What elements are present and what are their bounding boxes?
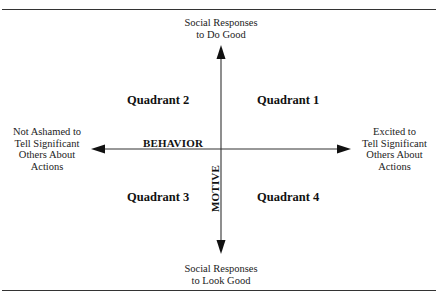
motive-axis-label: MOTIVE: [209, 168, 221, 212]
left-pole-line: Actions: [2, 161, 92, 173]
top-pole-label: Social Responses to Do Good: [160, 17, 282, 40]
quadrant-4-label: Quadrant 4: [257, 190, 319, 205]
bottom-pole-label: Social Responses to Look Good: [160, 263, 282, 286]
arrow-left-icon: [91, 145, 105, 154]
behavior-axis-label: BEHAVIOR: [143, 137, 203, 149]
right-pole-line: Excited to: [348, 126, 441, 138]
arrow-down-icon: [217, 240, 226, 254]
arrow-up-icon: [217, 45, 226, 59]
top-pole-line: Social Responses: [160, 17, 282, 29]
right-pole-line: Actions: [348, 161, 441, 173]
top-pole-line: to Do Good: [160, 29, 282, 41]
quadrant-2-label: Quadrant 2: [127, 93, 189, 108]
quadrant-3-label: Quadrant 3: [127, 190, 189, 205]
quadrant-1-label: Quadrant 1: [257, 93, 319, 108]
left-pole-line: Others About: [2, 149, 92, 161]
left-pole-line: Not Ashamed to: [2, 126, 92, 138]
bottom-pole-line: to Look Good: [160, 275, 282, 287]
right-pole-label: Excited to Tell Significant Others About…: [348, 126, 441, 172]
left-pole-label: Not Ashamed to Tell Significant Others A…: [2, 126, 92, 172]
right-pole-line: Tell Significant: [348, 138, 441, 150]
right-pole-line: Others About: [348, 149, 441, 161]
left-pole-line: Tell Significant: [2, 138, 92, 150]
bottom-pole-line: Social Responses: [160, 263, 282, 275]
